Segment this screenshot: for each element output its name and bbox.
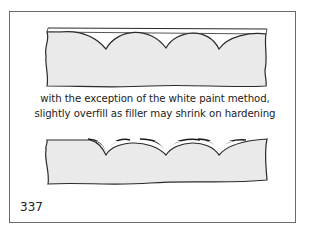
top-diagram — [0, 0, 267, 87]
page-number: 337 — [20, 200, 43, 214]
caption-line-2: slightly overfill as filler may shrink o… — [0, 108, 310, 119]
caption-line-1: with the exception of the white paint me… — [0, 93, 310, 104]
bottom-diagram — [46, 139, 267, 184]
